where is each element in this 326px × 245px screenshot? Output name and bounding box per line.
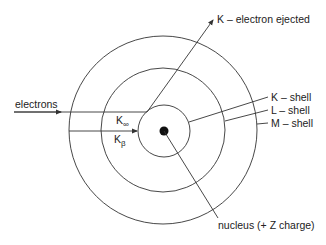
nucleus-label: nucleus (+ Z charge) (218, 220, 315, 231)
k-beta-main: K (114, 133, 121, 145)
k-alpha-main: K (116, 114, 123, 126)
ejected-electron-label: K – electron ejected (217, 14, 310, 25)
k-beta-subscript: β (121, 139, 126, 148)
l-shell-label: L – shell (271, 105, 310, 116)
m-shell-label: M – shell (271, 118, 313, 129)
k-alpha-subscript: ∞ (123, 120, 129, 129)
incoming-electrons-label: electrons (15, 99, 58, 110)
nucleus-leader-line (164, 131, 218, 218)
l-shell-leader-line (225, 110, 268, 121)
m-shell-leader-line (257, 123, 268, 124)
k-alpha-label: K∞ (116, 115, 129, 126)
k-shell-label: K – shell (271, 92, 311, 103)
ejected-electron-arrow (147, 20, 213, 112)
k-beta-label: Kβ (114, 134, 126, 145)
